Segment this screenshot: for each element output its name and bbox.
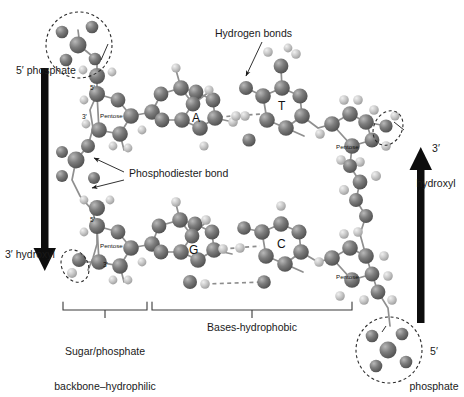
- label-pentose-4: Pentose: [336, 274, 359, 281]
- label-5prime-phosphate-right: 5′ phosphate: [404, 322, 464, 397]
- caption-bases-hydrophobic: Bases-hydrophobic: [186, 322, 318, 334]
- caption-sugar-phosphate-backbone: Sugar/phosphate backbone–hydrophilic: [25, 322, 185, 397]
- label-3prime-sugar-1: 3′: [82, 113, 87, 120]
- leader-phosphodiester-1: [94, 158, 124, 172]
- label-pentose-3: Pentose: [100, 243, 123, 250]
- dna-structure-figure: 5′ phosphate 3′ hydroxyl Hydrogen bonds …: [0, 0, 464, 397]
- label-5prime-phosphate-right-line2: phosphate: [404, 381, 464, 393]
- arrow-left-down: [34, 68, 57, 271]
- label-5prime-sugar-1: 5′: [90, 84, 95, 91]
- leader-5prime-phosphate-left: [101, 44, 108, 60]
- caption-sugar-phosphate-line1: Sugar/phosphate: [25, 346, 185, 358]
- circle-3prime-hydroxyl-left: [56, 245, 95, 287]
- base-letter-thymine: T: [278, 100, 285, 113]
- label-5prime-sugar-3: 5′: [90, 216, 95, 223]
- bracket-sugar-phosphate: [63, 302, 147, 318]
- leader-hydrogen-bonds: [246, 42, 262, 76]
- label-3prime-hydroxyl-left: 3′ hydroxyl: [5, 249, 55, 261]
- label-5prime-phosphate-right-line1: 5′: [404, 346, 464, 358]
- atom-spheres: [56, 21, 413, 373]
- base-letter-guanine: G: [189, 244, 198, 257]
- bracket-bases: [152, 302, 352, 318]
- base-letter-adenine: A: [192, 112, 200, 125]
- label-3prime-hydroxyl-right-line1: 3′: [410, 143, 462, 155]
- label-5prime-phosphate-left: 5′ phosphate: [16, 65, 76, 77]
- label-pentose-2: Pentose: [336, 144, 359, 151]
- label-hydrogen-bonds: Hydrogen bonds: [215, 28, 292, 40]
- label-pentose-1: Pentose: [100, 113, 123, 120]
- label-3prime-hydroxyl-right-line2: hydroxyl: [410, 178, 462, 190]
- leader-5prime-phosphate-right: [382, 326, 386, 332]
- label-phosphodiester-bond: Phosphodiester bond: [129, 168, 228, 180]
- base-letter-cytosine: C: [277, 238, 286, 251]
- bond-network: [72, 30, 390, 326]
- label-3prime-hydroxyl-right: 3′ hydroxyl: [410, 119, 462, 213]
- caption-sugar-phosphate-line2: backbone–hydrophilic: [25, 381, 185, 393]
- label-3prime-sugar-3: 3′: [103, 261, 108, 268]
- bottom-brackets: [63, 302, 352, 318]
